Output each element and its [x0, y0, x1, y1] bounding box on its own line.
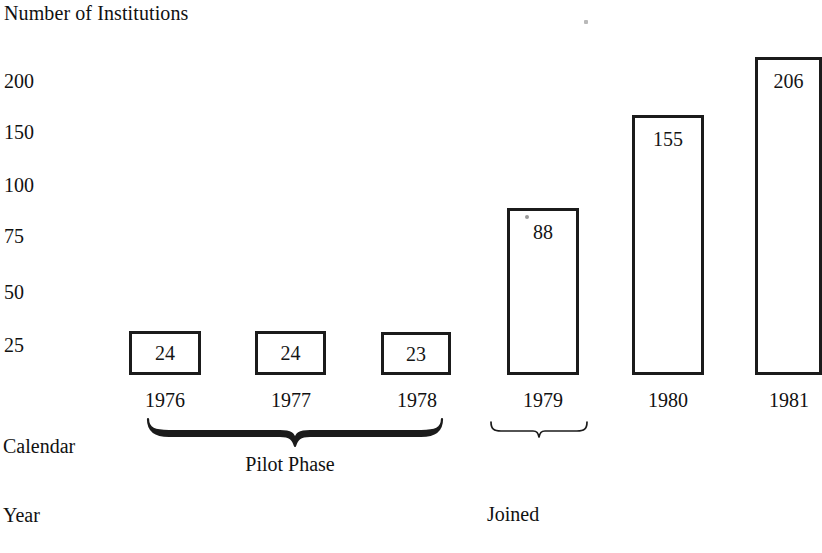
- bar-value-1981: 206: [758, 70, 819, 92]
- scan-speck-artifact-secondary: [525, 215, 529, 219]
- x-axis-label-line1: Calendar: [3, 435, 75, 458]
- x-axis-year-1978: 1978: [377, 389, 457, 411]
- y-axis-tick-25: 25: [4, 334, 24, 356]
- bar-value-1978: 23: [384, 342, 448, 364]
- caption-pilot-phase: Pilot Phase: [190, 453, 390, 476]
- y-axis-tick-100: 100: [4, 174, 34, 196]
- bar-1978: 23: [381, 332, 451, 375]
- x-axis-year-1977: 1977: [251, 389, 331, 411]
- bar-1980: 155: [632, 115, 704, 375]
- bar-chart: Number of Institutions 200 150 100 75 50…: [0, 0, 822, 553]
- y-axis-tick-200: 200: [4, 70, 34, 92]
- bar-1981: 206: [755, 57, 822, 375]
- x-axis-year-1976: 1976: [125, 389, 205, 411]
- scan-speck-artifact: [584, 20, 588, 24]
- x-axis-year-1979: 1979: [503, 389, 583, 411]
- pilot-phase-brace-icon: [145, 415, 445, 449]
- bar-value-1977: 24: [258, 342, 323, 364]
- chart-title: Number of Institutions: [4, 1, 188, 25]
- y-axis-tick-150: 150: [4, 121, 34, 143]
- ace-brace: [489, 420, 589, 440]
- x-axis-year-1980: 1980: [628, 389, 708, 411]
- bar-1977: 24: [255, 331, 326, 375]
- bar-value-1980: 155: [635, 128, 701, 150]
- caption-joined-ace: Joined the Am. Council on Educ.: [487, 449, 597, 553]
- x-axis-label: Calendar Year: [3, 389, 75, 553]
- x-axis-label-line2: Year: [3, 504, 75, 527]
- bar-value-1979: 88: [510, 221, 576, 243]
- caption-ace-line1: Joined: [487, 501, 597, 527]
- bar-1976: 24: [129, 331, 201, 375]
- y-axis-tick-75: 75: [4, 225, 24, 247]
- x-axis-year-1981: 1981: [749, 389, 822, 411]
- ace-brace-icon: [489, 420, 589, 440]
- y-axis-tick-50: 50: [4, 281, 24, 303]
- bar-value-1976: 24: [132, 342, 198, 364]
- pilot-phase-brace: [145, 415, 445, 449]
- bar-1979: 88: [507, 208, 579, 375]
